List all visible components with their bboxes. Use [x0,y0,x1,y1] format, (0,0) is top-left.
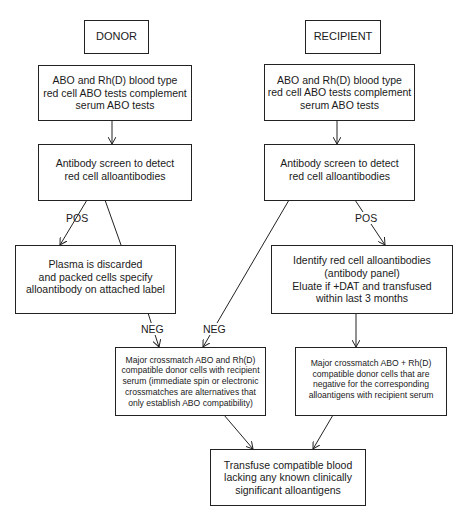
recipient-neg-label: NEG [203,323,226,335]
donor-neg-label: NEG [141,323,164,335]
donor-node: DONOR [84,20,149,54]
recipient-pos-label: POS [355,212,377,224]
transfuse-node: Transfuse compatible blood lacking any k… [210,449,366,506]
donor-blood-typing-node: ABO and Rh(D) blood type red cell ABO te… [38,65,192,121]
major-crossmatch-pos-node: Major crossmatch ABO + Rh(D) compatible … [295,347,447,416]
plasma-discarded-node: Plasma is discarded and packed cells spe… [15,245,176,314]
donor-antibody-screen-node: Antibody screen to detect red cell alloa… [38,144,192,201]
major-crossmatch-neg-node: Major crossmatch ABO and Rh(D) compatibl… [115,347,266,416]
edge-crossmatch-neg-to-transfuse [224,415,253,449]
recipient-blood-typing-node: ABO and Rh(D) blood type red cell ABO te… [264,64,415,121]
identify-alloantibodies-node: Identify red cell alloantibodies (antibo… [271,245,453,314]
recipient-antibody-screen-node: Antibody screen to detect red cell alloa… [264,144,415,201]
edge-donor-screen-neg-upper [105,200,121,245]
recipient-node: RECIPIENT [305,20,381,54]
donor-pos-label: POS [66,212,88,224]
edge-crossmatch-pos-to-transfuse [313,415,333,449]
